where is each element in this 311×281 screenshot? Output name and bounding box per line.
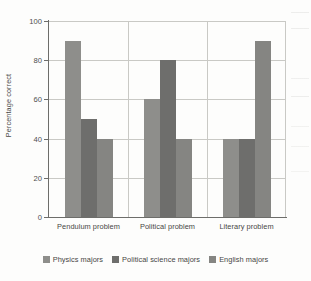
legend-swatch-icon	[209, 256, 216, 263]
chart-legend: Physics majorsPolitical science majorsEn…	[0, 255, 311, 264]
bar	[176, 139, 192, 217]
legend-label: Political science majors	[122, 255, 200, 264]
legend-label: Physics majors	[53, 255, 103, 264]
legend-item: Political science majors	[112, 255, 200, 264]
y-axis-tick-label: 20	[16, 173, 42, 182]
y-axis-tick-label: 80	[16, 56, 42, 65]
legend-item: Physics majors	[43, 255, 103, 264]
y-axis-tick-labels: 020406080100	[0, 0, 42, 281]
y-axis-tick-label: 100	[16, 17, 42, 26]
bar	[160, 60, 176, 217]
y-axis-line	[48, 20, 49, 218]
bar	[223, 139, 239, 217]
bar	[65, 41, 81, 217]
category-label: Pendulum problem	[49, 222, 128, 231]
x-axis-line	[49, 217, 287, 218]
bar	[239, 139, 255, 217]
bar	[255, 41, 271, 217]
y-axis-tick-label: 0	[16, 213, 42, 222]
category-label: Political problem	[128, 222, 207, 231]
bar	[81, 119, 97, 217]
legend-label: English majors	[219, 255, 268, 264]
y-axis-tick-label: 40	[16, 134, 42, 143]
bar-chart-figure: Percentage correct 020406080100 Pendulum…	[0, 0, 311, 281]
bar	[144, 99, 160, 217]
bar	[97, 139, 113, 217]
category-label: Literary problem	[207, 222, 286, 231]
legend-swatch-icon	[112, 256, 119, 263]
legend-item: English majors	[209, 255, 268, 264]
bar-series-container	[49, 21, 286, 217]
page-bleed-through-artifact	[291, 6, 309, 196]
legend-swatch-icon	[43, 256, 50, 263]
plot-area	[49, 21, 286, 217]
y-axis-tick-label: 60	[16, 95, 42, 104]
